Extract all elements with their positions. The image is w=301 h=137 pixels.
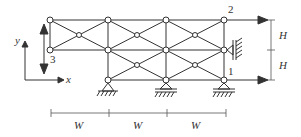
dimension-lines xyxy=(51,20,275,117)
dim-h1: H xyxy=(279,30,287,41)
dim-w1: W xyxy=(74,120,83,131)
supports xyxy=(97,38,242,97)
truss-diagram: 2 1 3 y x W W W H H xyxy=(0,0,301,137)
x-axis-label: x xyxy=(66,74,71,85)
y-axis-label: y xyxy=(15,35,20,46)
coordinate-axes xyxy=(22,41,64,83)
node-label-1: 1 xyxy=(228,66,234,77)
truss-members xyxy=(50,20,224,80)
node-label-2: 2 xyxy=(228,4,234,15)
node-label-3: 3 xyxy=(50,54,56,65)
truss-drawing xyxy=(0,0,301,137)
dim-w3: W xyxy=(191,120,200,131)
dim-h2: H xyxy=(279,60,287,71)
dim-w2: W xyxy=(133,120,142,131)
